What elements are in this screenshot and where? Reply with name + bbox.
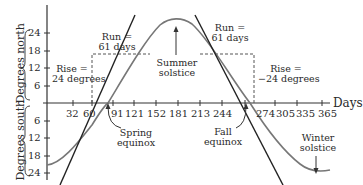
x-tick-label-152: 152 bbox=[147, 109, 166, 119]
x-tick-label-213: 213 bbox=[191, 109, 210, 119]
x-tick-label-274: 274 bbox=[256, 109, 275, 119]
annotation-run-left-line2: 61 days bbox=[92, 42, 142, 52]
annotation-winter-line2: solstice bbox=[296, 143, 340, 153]
summer-arrowhead bbox=[174, 26, 179, 32]
y-axis-label-south: Degrees south bbox=[14, 101, 27, 181]
y-tick-label-n6: 6 bbox=[34, 81, 40, 91]
y-tick-label-s24: 24 bbox=[28, 168, 41, 178]
annotation-run-right: Run = 61 days bbox=[205, 23, 255, 43]
annotation-rise-left: Rise = 24 degrees bbox=[52, 64, 92, 84]
annotation-spring-line2: equinox bbox=[115, 138, 157, 148]
x-tick-label-244: 244 bbox=[213, 109, 232, 119]
fall-arrowhead bbox=[244, 103, 249, 109]
chart-canvas bbox=[0, 0, 363, 185]
x-tick-label-91: 91 bbox=[111, 109, 124, 119]
annotation-winter-solstice: Winter solstice bbox=[296, 133, 340, 153]
annotation-fall-equinox: Fall equinox bbox=[203, 127, 243, 147]
annotation-rise-right: Rise = −24 degrees bbox=[258, 64, 314, 84]
dashed-rise-run-right bbox=[200, 54, 254, 103]
x-tick-label-365: 365 bbox=[318, 109, 337, 119]
y-tick-label-n18: 18 bbox=[28, 46, 41, 56]
annotation-run-left: Run = 61 days bbox=[92, 32, 142, 52]
annotation-fall-line2: equinox bbox=[203, 137, 243, 147]
sinusoid-curve bbox=[47, 19, 330, 171]
x-tick-label-335: 335 bbox=[296, 109, 315, 119]
x-tick-label-305: 305 bbox=[276, 109, 295, 119]
y-tick-label-n24: 24 bbox=[28, 28, 41, 38]
y-tick-label-n12: 12 bbox=[28, 63, 41, 73]
x-tick-label-181: 181 bbox=[169, 109, 188, 119]
annotation-summer-line2: solstice bbox=[155, 68, 199, 78]
x-tick-label-60: 60 bbox=[83, 109, 96, 119]
annotation-summer-solstice: Summer solstice bbox=[155, 58, 199, 78]
annotation-rise-left-line2: 24 degrees bbox=[52, 74, 92, 84]
y-tick-label-s6: 6 bbox=[34, 116, 40, 126]
annotation-spring-equinox: Spring equinox bbox=[115, 128, 157, 148]
x-tick-label-121: 121 bbox=[125, 109, 144, 119]
annotation-rise-right-line2: −24 degrees bbox=[258, 74, 314, 84]
x-tick-label-32: 32 bbox=[66, 109, 79, 119]
x-axis-label: Days bbox=[333, 96, 363, 110]
y-tick-label-s12: 12 bbox=[28, 133, 41, 143]
y-axis-label-north: Degrees north bbox=[14, 24, 27, 104]
y-tick-label-s18: 18 bbox=[28, 151, 41, 161]
annotation-run-right-line2: 61 days bbox=[205, 33, 255, 43]
